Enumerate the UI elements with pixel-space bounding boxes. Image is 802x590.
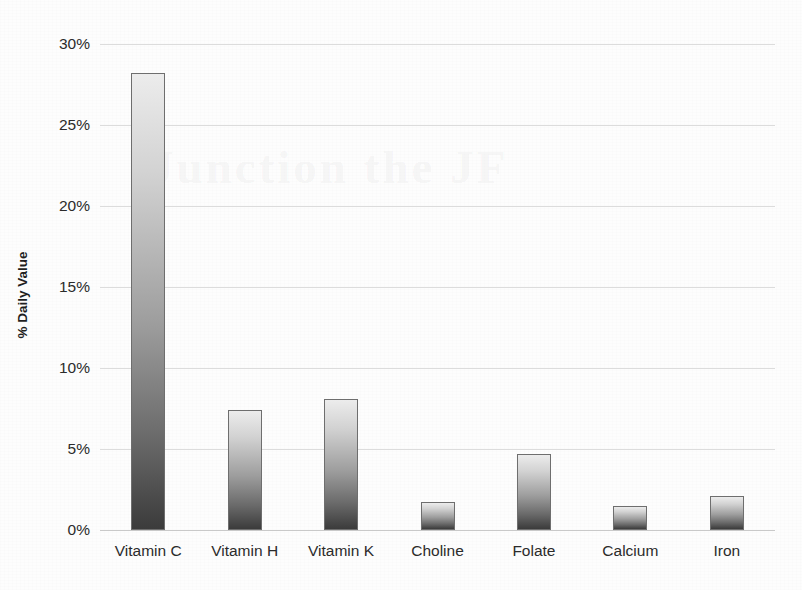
bar <box>710 496 744 530</box>
gridline <box>100 44 775 45</box>
y-tick-label: 5% <box>44 440 90 458</box>
bar <box>228 410 262 530</box>
gridline <box>100 368 775 369</box>
gridline <box>100 206 775 207</box>
y-tick-label: 20% <box>44 197 90 215</box>
bar <box>131 73 165 530</box>
plot-area <box>100 44 775 530</box>
bar <box>421 502 455 530</box>
gridline <box>100 449 775 450</box>
bar <box>517 454 551 530</box>
bar-chart-figure: Junction the JF % Daily Value 30%25%20%1… <box>0 0 802 590</box>
x-tick-label: Iron <box>662 542 792 560</box>
gridline <box>100 287 775 288</box>
gridline <box>100 125 775 126</box>
y-tick-label: 30% <box>44 35 90 53</box>
bar <box>324 399 358 530</box>
y-tick-label: 10% <box>44 359 90 377</box>
y-axis-title: % Daily Value <box>15 251 30 338</box>
y-tick-label: 25% <box>44 116 90 134</box>
gridline <box>100 530 775 531</box>
y-tick-label: 15% <box>44 278 90 296</box>
y-tick-label: 0% <box>44 521 90 539</box>
bar <box>613 506 647 530</box>
